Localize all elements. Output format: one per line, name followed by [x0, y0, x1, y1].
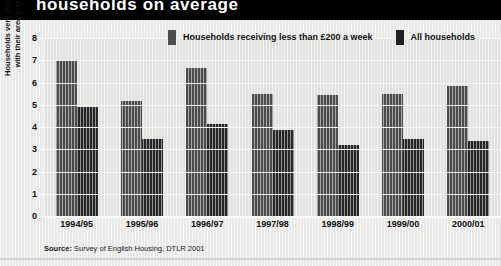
x-tick-label: 1999/00: [372, 219, 434, 229]
source-text: Survey of English Housing, DTLR 2001: [74, 244, 205, 253]
x-tick-label: 1995/96: [111, 219, 173, 229]
chart-legend: Households receiving less than £200 a we…: [168, 29, 475, 45]
bar-low-income: [56, 60, 77, 216]
gridline: [44, 83, 501, 84]
x-tick-label: 1998/99: [307, 219, 369, 229]
x-tick-label: 1994/95: [46, 219, 108, 229]
page-title: households on average: [36, 0, 238, 15]
y-tick-label: 3: [7, 144, 37, 154]
bar-low-income: [317, 95, 338, 216]
figure-body: Households receiving less than £200 a we…: [0, 20, 501, 266]
x-tick-label: 1996/97: [176, 219, 238, 229]
y-tick-mark: [40, 194, 44, 195]
source-label: Source:: [44, 244, 72, 253]
y-tick-label: 0: [7, 211, 37, 221]
y-tick-mark: [40, 216, 44, 217]
legend-item-low-income: Households receiving less than £200 a we…: [168, 30, 373, 45]
x-tick-label: 2000/01: [437, 219, 499, 229]
legend-swatch-icon-all-households: [396, 30, 404, 45]
x-axis-labels: 1994/951995/961996/971997/981998/991999/…: [44, 219, 501, 233]
bar-all-households: [338, 145, 359, 216]
y-tick-label: 2: [7, 167, 37, 177]
y-tick-label: 1: [7, 189, 37, 199]
y-tick-mark: [40, 83, 44, 84]
y-tick-label: 8: [7, 33, 37, 43]
bar-all-households: [273, 130, 294, 216]
y-tick-mark: [40, 127, 44, 128]
plot-area: [44, 38, 501, 216]
bottom-divider: [0, 258, 501, 260]
y-tick-label: 6: [7, 78, 37, 88]
source-note: Source: Survey of English Housing, DTLR …: [44, 244, 205, 253]
bar-low-income: [121, 101, 142, 216]
legend-item-all-households: All households: [396, 30, 476, 45]
y-tick-label: 5: [7, 100, 37, 110]
legend-label-all-households: All households: [411, 32, 476, 42]
bar-all-households: [468, 141, 489, 216]
y-tick-mark: [40, 60, 44, 61]
gridline: [44, 172, 501, 173]
y-tick-mark: [40, 172, 44, 173]
bar-all-households: [403, 139, 424, 216]
y-tick-mark: [40, 149, 44, 150]
bar-all-households: [142, 139, 163, 216]
gridline: [44, 127, 501, 128]
bar-low-income: [382, 94, 403, 216]
legend-label-low-income: Households receiving less than £200 a we…: [183, 32, 373, 42]
gridline: [44, 194, 501, 195]
y-tick-label: 4: [7, 122, 37, 132]
y-tick-mark: [40, 105, 44, 106]
bar-all-households: [77, 107, 98, 216]
title-banner: households on average: [0, 0, 501, 20]
gridline: [44, 60, 501, 61]
gridline: [44, 105, 501, 106]
x-tick-label: 1997/98: [242, 219, 304, 229]
bar-low-income: [252, 94, 273, 216]
y-tick-label: 7: [7, 55, 37, 65]
chart-screenshot: households on average Households receivi…: [0, 0, 501, 266]
y-tick-mark: [40, 38, 44, 39]
legend-swatch-icon-low-income: [168, 30, 176, 45]
gridline: [44, 149, 501, 150]
bar-all-households: [207, 124, 228, 216]
x-axis-line: [44, 216, 501, 218]
